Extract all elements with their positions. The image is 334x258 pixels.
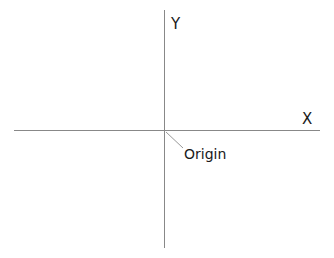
y-axis-label: Y: [171, 17, 180, 32]
origin-label: Origin: [184, 147, 226, 161]
coordinate-diagram: Y X Origin: [0, 0, 334, 258]
origin-leader-line: [166, 132, 183, 148]
x-axis-label: X: [302, 112, 312, 127]
axes-canvas: [0, 0, 334, 258]
